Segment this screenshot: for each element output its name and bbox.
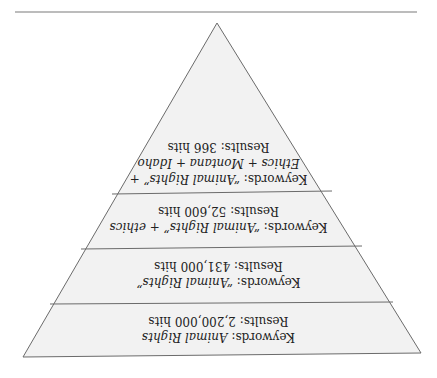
band-4-keywords-cont: Ethics + Montana + Idaho — [0, 155, 437, 171]
results-label: Results: — [240, 314, 289, 328]
keywords-value: “Animal Rights” + — [130, 172, 240, 186]
band-2: Keywords: “Animal Rights” Results: 431,0… — [0, 258, 437, 290]
band-4-results: Results: 366 hits — [0, 139, 437, 155]
results-value: 366 hits — [168, 140, 217, 154]
results-value: 431,000 hits — [154, 259, 230, 273]
band-3-keywords: Keywords: “Animal Rights” + ethics — [0, 219, 437, 235]
funnel-shape — [23, 23, 421, 357]
band-1-keywords: Keywords: Animal Rights — [0, 329, 437, 345]
band-3: Keywords: “Animal Rights” + ethics Resul… — [0, 203, 437, 235]
keywords-label: Keywords: — [231, 330, 295, 344]
band-2-keywords: Keywords: “Animal Rights” — [0, 274, 437, 290]
results-value: 2,200,000 hits — [148, 314, 235, 328]
results-label: Results: — [221, 140, 270, 154]
keywords-label: Keywords: — [264, 220, 328, 234]
keywords-value: Animal Rights — [142, 330, 228, 344]
band-4-keywords: Keywords: “Animal Rights” + — [0, 171, 437, 187]
results-label: Results: — [230, 204, 279, 218]
band-1-results: Results: 2,200,000 hits — [0, 313, 437, 329]
keywords-value: “Animal Rights” — [137, 275, 233, 289]
band-2-results: Results: 431,000 hits — [0, 258, 437, 274]
rotated-page: Keywords: Animal Rights Results: 2,200,0… — [0, 0, 437, 378]
keywords-value: “Animal Rights” + ethics — [110, 220, 260, 234]
results-label: Results: — [234, 259, 283, 273]
results-value: 52,600 hits — [158, 204, 226, 218]
keywords-label: Keywords: — [237, 275, 301, 289]
keywords-label: Keywords: — [244, 172, 308, 186]
band-4: Keywords: “Animal Rights” + Ethics + Mon… — [0, 139, 437, 187]
band-1: Keywords: Animal Rights Results: 2,200,0… — [0, 313, 437, 345]
band-3-results: Results: 52,600 hits — [0, 203, 437, 219]
